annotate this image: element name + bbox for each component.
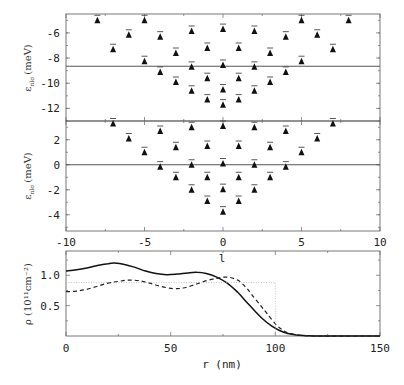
data-point [330, 44, 336, 52]
y-tick-label: 1.0 [40, 269, 60, 282]
lower-y-ticks: 1.00.5 [40, 260, 380, 321]
data-point [251, 26, 257, 34]
data-point [283, 32, 289, 40]
data-point [283, 67, 289, 75]
data-point [236, 172, 242, 180]
triangle-marker [189, 124, 195, 131]
x-tick-label: 10 [373, 236, 386, 249]
data-point [189, 86, 195, 94]
x-tick-label: -5 [138, 236, 151, 249]
data-point [283, 126, 289, 134]
data-point [283, 162, 289, 170]
triangle-marker [189, 87, 195, 94]
data-point [236, 95, 242, 103]
middle-x-ticks: -10-50510 [56, 236, 387, 249]
triangle-marker [173, 78, 179, 85]
data-point [236, 43, 242, 51]
y-tick-label: -10 [40, 77, 60, 90]
data-point [314, 134, 320, 142]
triangle-marker [251, 186, 257, 193]
data-point [173, 77, 179, 85]
triangle-marker [283, 68, 289, 75]
data-point [299, 56, 305, 64]
triangle-marker [157, 128, 163, 135]
data-point [126, 30, 132, 38]
data-point [157, 162, 163, 170]
triangle-marker [204, 143, 210, 150]
data-point [110, 119, 116, 127]
lower-x-axis-title: r (nm) [202, 358, 242, 371]
triangle-marker [220, 101, 226, 108]
middle-panel: 20-2-4 -10-50510 εnlσ(meV) [22, 119, 387, 250]
data-point [189, 185, 195, 193]
chart-figure: -6-8-10-12 εnlσ(meV) 20-2-4 -10-50510 εn… [0, 0, 404, 385]
triangle-marker [220, 186, 226, 193]
data-point [189, 122, 195, 130]
y-tick-label: 0 [53, 159, 60, 172]
middle-y-ticks: 20-2-4 [47, 121, 380, 231]
x-tick-label: 150 [370, 342, 390, 355]
y-tick-label: 0.5 [40, 300, 60, 313]
x-tick-label: 0 [63, 342, 70, 355]
data-point [220, 24, 226, 32]
data-point [267, 142, 273, 150]
y-tick-label: -2 [47, 184, 60, 197]
data-point [220, 159, 226, 167]
upper-ylabel-unit: (meV) [22, 44, 33, 75]
triangle-marker [236, 44, 242, 51]
x-tick-label: 50 [164, 342, 177, 355]
triangle-marker [236, 75, 242, 82]
x-tick-label: 100 [265, 342, 285, 355]
triangle-marker [251, 27, 257, 34]
triangle-marker [283, 128, 289, 135]
data-point [220, 207, 226, 215]
middle-ylabel-sub: nlσ [28, 185, 35, 195]
data-point [142, 147, 148, 155]
triangle-marker [189, 27, 195, 34]
data-point [267, 172, 273, 180]
data-point [157, 32, 163, 40]
y-tick-label: -12 [40, 102, 60, 115]
triangle-marker [299, 149, 305, 156]
triangle-marker [220, 86, 226, 93]
triangle-marker [267, 78, 273, 85]
data-point [267, 77, 273, 85]
upper-y-ticks: -6-8-10-12 [40, 14, 380, 121]
data-point [126, 134, 132, 142]
data-point [220, 100, 226, 108]
svg-text:εnlσ(meV): εnlσ(meV) [22, 152, 35, 200]
data-point [94, 15, 100, 23]
triangle-marker [236, 198, 242, 205]
middle-y-axis-title: εnlσ(meV) [22, 152, 35, 200]
data-point [204, 141, 210, 149]
series-reference-line [66, 283, 275, 336]
triangle-marker [126, 31, 132, 38]
triangle-marker [157, 68, 163, 75]
data-point [251, 86, 257, 94]
data-point [142, 56, 148, 64]
triangle-marker [283, 163, 289, 170]
triangle-marker [204, 96, 210, 103]
data-point [204, 172, 210, 180]
lower-x-ticks: 050100150 [63, 251, 390, 355]
data-point [189, 26, 195, 34]
data-point [173, 48, 179, 56]
x-tick-label: -10 [56, 236, 76, 249]
y-tick-label: -6 [47, 27, 60, 40]
upper-ylabel-sub: nlσ [28, 77, 35, 87]
data-point [267, 48, 273, 56]
lower-panel: l 1.00.5 050100150 ρ (10¹¹cm⁻²) r (nm) [22, 251, 390, 371]
upper-data-points [94, 15, 351, 107]
triangle-marker [110, 46, 116, 53]
data-point [110, 44, 116, 52]
triangle-marker [299, 58, 305, 64]
triangle-marker [173, 50, 179, 57]
triangle-marker [299, 17, 305, 24]
middle-x-axis-title: l [219, 252, 226, 265]
svg-text:εnlσ(meV): εnlσ(meV) [22, 44, 35, 92]
data-point [189, 160, 195, 168]
triangle-marker [94, 17, 100, 24]
data-point [220, 184, 226, 192]
triangle-marker [220, 208, 226, 215]
middle-ylabel-unit: (meV) [22, 152, 33, 183]
